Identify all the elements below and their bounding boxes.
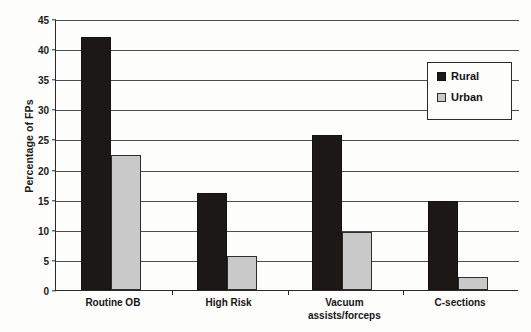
x-axis-tick-mark	[172, 290, 173, 295]
y-axis-tick-label: 45	[38, 15, 49, 26]
bar-rural-0	[81, 37, 111, 290]
y-axis-tick-mark	[52, 260, 56, 261]
y-axis-tick-label: 15	[38, 195, 49, 206]
y-axis-tick-mark	[52, 49, 56, 50]
chart-legend: Rural Urban	[427, 62, 512, 120]
y-axis-tick-mark	[52, 170, 56, 171]
x-axis-tick-mark	[288, 290, 289, 295]
y-axis-tick-label: 25	[38, 135, 49, 146]
bar-rural-1	[197, 193, 227, 290]
y-axis-tick-label: 0	[43, 286, 49, 297]
bar-rural-3	[428, 201, 458, 290]
gridline	[56, 140, 519, 141]
x-axis-label: C-sections	[402, 297, 518, 310]
bar-urban-0	[111, 155, 141, 290]
y-axis-title: Percentage of FPs	[23, 56, 35, 236]
legend-item-rural: Rural	[437, 70, 511, 82]
bar-chart: Percentage of FPs 051015202530354045 Rur…	[0, 0, 531, 332]
y-axis-tick-label: 30	[38, 105, 49, 116]
y-axis-tick-mark	[52, 290, 56, 291]
x-axis-label: High Risk	[171, 297, 287, 310]
y-axis-tick-label: 40	[38, 45, 49, 56]
gridline	[56, 50, 519, 51]
legend-item-urban: Urban	[437, 91, 511, 103]
rural-swatch-icon	[437, 72, 446, 81]
y-axis-tick-mark	[52, 200, 56, 201]
bar-urban-1	[227, 256, 257, 290]
x-axis-label: Vacuum assists/forceps	[287, 297, 403, 322]
bar-urban-3	[458, 277, 488, 290]
y-axis-tick-label: 10	[38, 225, 49, 236]
x-axis-tick-mark	[403, 290, 404, 295]
x-axis-label: Routine OB	[55, 297, 171, 310]
legend-label-rural: Rural	[451, 70, 479, 82]
bar-urban-2	[342, 232, 372, 290]
plot-area: 051015202530354045	[55, 20, 518, 291]
y-axis-tick-mark	[52, 19, 56, 20]
y-axis-tick-label: 35	[38, 75, 49, 86]
y-axis-tick-label: 20	[38, 165, 49, 176]
urban-swatch-icon	[437, 93, 446, 102]
y-axis-tick-mark	[52, 230, 56, 231]
bar-rural-2	[312, 135, 342, 290]
gridline	[56, 20, 519, 21]
y-axis-tick-mark	[52, 110, 56, 111]
y-axis-tick-mark	[52, 80, 56, 81]
y-axis-tick-label: 5	[43, 255, 49, 266]
legend-label-urban: Urban	[451, 91, 483, 103]
y-axis-tick-mark	[52, 140, 56, 141]
